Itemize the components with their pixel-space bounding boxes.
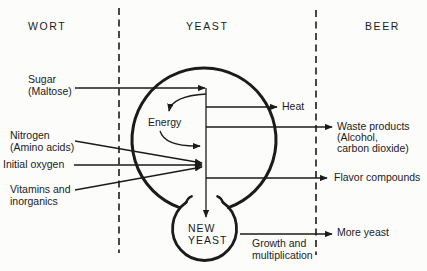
waste-products-label: Waste products (Alcohol, carbon dioxide) — [337, 121, 410, 154]
vitamins-label-line1: Vitamins and — [10, 184, 71, 196]
column-header-wort: WORT — [28, 20, 66, 32]
energy-label: Energy — [148, 117, 181, 129]
vitamins-label: Vitamins and inorganics — [10, 184, 71, 207]
nitrogen-label: Nitrogen (Amino acids) — [10, 130, 74, 153]
new-yeast-label: NEW YEAST — [188, 222, 227, 246]
new-yeast-label-line2: YEAST — [188, 234, 227, 246]
sugar-label-line2: (Maltose) — [28, 86, 72, 98]
yeast-bud-curl-right — [217, 196, 223, 202]
sugar-label-line1: Sugar — [28, 74, 72, 86]
nitrogen-arrow — [75, 141, 202, 163]
more-yeast-label: More yeast — [337, 227, 389, 239]
energy-out-arrow — [160, 131, 200, 146]
nitrogen-label-line2: (Amino acids) — [10, 142, 74, 154]
energy-in-arrow — [169, 94, 206, 111]
yeast-bud-curl-left — [186, 196, 192, 202]
growth-label-line1: Growth and — [252, 238, 313, 250]
new-yeast-label-line1: NEW — [188, 222, 227, 234]
oxygen-label: Initial oxygen — [3, 159, 64, 171]
waste-products-label-line3: carbon dioxide) — [337, 143, 410, 154]
flavor-compounds-label: Flavor compounds — [334, 172, 420, 184]
yeast-cell-outline — [132, 68, 276, 208]
column-header-beer: BEER — [365, 20, 400, 32]
column-header-yeast: YEAST — [186, 20, 228, 32]
fermentation-diagram: WORT YEAST BEER Sugar (Maltose) Nitrogen… — [0, 0, 427, 271]
heat-label: Heat — [282, 101, 304, 113]
growth-label-line2: multiplication — [252, 250, 313, 262]
vitamins-label-line2: inorganics — [10, 196, 71, 208]
growth-label: Growth and multiplication — [252, 238, 313, 261]
nitrogen-label-line1: Nitrogen — [10, 130, 74, 142]
sugar-label: Sugar (Maltose) — [28, 74, 72, 97]
